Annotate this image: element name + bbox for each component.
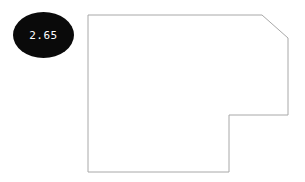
part-outline-polygon: [88, 15, 288, 172]
dimension-callout[interactable]: 2.65: [13, 12, 74, 58]
diagram-canvas: 2.65: [0, 0, 305, 182]
callout-label: 2.65: [29, 29, 58, 42]
